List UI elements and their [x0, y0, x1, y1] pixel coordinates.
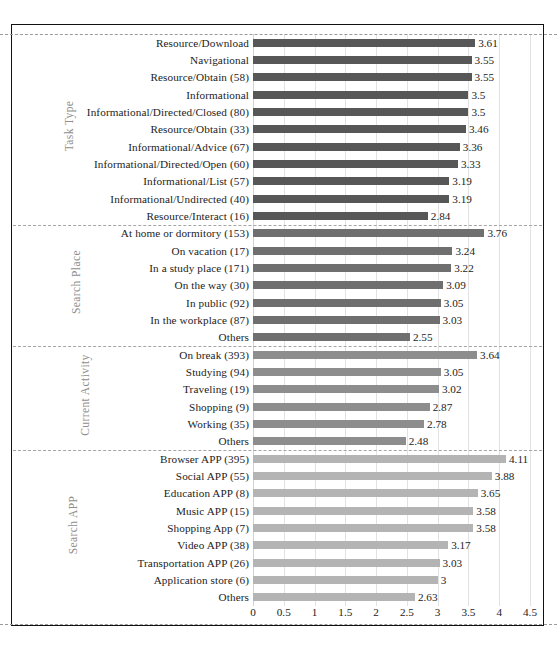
bar	[253, 472, 492, 480]
bar	[253, 333, 410, 341]
bar-value-label: 3.36	[463, 141, 483, 153]
x-tick-label: 0	[250, 606, 256, 618]
bar-row: Traveling (19)3.02	[0, 381, 557, 398]
bar-row: Resource/Obtain (33)3.46	[0, 121, 557, 138]
bar-row: At home or dormitory (153)3.76	[0, 225, 557, 242]
category-label: Informational/Directed/Open (60)	[94, 158, 249, 170]
bar	[253, 351, 477, 359]
x-tick-label: 2.5	[400, 606, 414, 618]
bar-row: Others2.63	[0, 589, 557, 606]
bar-row: Navigational3.55	[0, 51, 557, 68]
bar-value-label: 3.22	[454, 262, 474, 274]
category-label: Resource/Obtain (58)	[150, 71, 249, 83]
bar-value-label: 2.87	[433, 401, 453, 413]
category-label: Informational/List (57)	[143, 175, 249, 187]
bar-value-label: 3.17	[451, 539, 471, 551]
bar-row: Resource/Interact (16)2.84	[0, 207, 557, 224]
bar-value-label: 3.55	[475, 71, 495, 83]
bar	[253, 108, 468, 116]
category-label: Resource/Obtain (33)	[150, 123, 249, 135]
bar-value-label: 3.64	[480, 349, 500, 361]
bar-value-label: 3.03	[443, 314, 463, 326]
bar-row: Informational/Undirected (40)3.19	[0, 190, 557, 207]
bar-value-label: 3.88	[495, 470, 515, 482]
bar-row: In a study place (171)3.22	[0, 259, 557, 276]
category-label: Informational/Directed/Closed (80)	[87, 106, 249, 118]
bar-value-label: 4.11	[509, 453, 528, 465]
bar	[253, 160, 458, 168]
bar	[253, 91, 468, 99]
bar-value-label: 2.55	[413, 331, 433, 343]
category-label: Resource/Download	[156, 37, 249, 49]
x-tick-label: 1.5	[338, 606, 352, 618]
bar	[253, 177, 449, 185]
bar-row: Informational/Directed/Closed (80)3.5	[0, 103, 557, 120]
bar-value-label: 3.24	[455, 245, 475, 257]
bar-row: Informational/List (57)3.19	[0, 173, 557, 190]
category-label: In a study place (171)	[149, 262, 249, 274]
section-divider	[13, 450, 542, 451]
bar-value-label: 3.65	[481, 487, 501, 499]
category-label: Working (35)	[187, 418, 249, 430]
category-label: Informational/Undirected (40)	[110, 193, 249, 205]
bar-value-label: 3.05	[444, 297, 464, 309]
bar-value-label: 3.61	[478, 37, 498, 49]
bar	[253, 576, 438, 584]
bar-row: Informational3.5	[0, 86, 557, 103]
x-tick-label: 4	[496, 606, 502, 618]
bar	[253, 281, 443, 289]
category-label: Others	[219, 591, 249, 603]
category-label: Resource/Interact (16)	[146, 210, 249, 222]
category-label: On break (393)	[179, 349, 249, 361]
bar-value-label: 2.78	[427, 418, 447, 430]
bar-row: Music APP (15)3.58	[0, 502, 557, 519]
category-label: Studying (94)	[186, 366, 249, 378]
bar	[253, 229, 484, 237]
bar-row: Informational/Advice (67)3.36	[0, 138, 557, 155]
bar-value-label: 3.33	[461, 158, 481, 170]
category-label: Shopping (9)	[189, 401, 249, 413]
category-label: Transportation APP (26)	[138, 557, 250, 569]
category-label: In the workplace (87)	[150, 314, 249, 326]
bar-row: In the workplace (87)3.03	[0, 311, 557, 328]
category-label: On the way (30)	[174, 279, 249, 291]
x-tick-label: 2	[373, 606, 379, 618]
bar-row: Resource/Obtain (58)3.55	[0, 69, 557, 86]
bar-row: On break (393)3.64	[0, 346, 557, 363]
bar-value-label: 3.19	[452, 193, 472, 205]
bar	[253, 455, 506, 463]
bar-value-label: 3.55	[475, 54, 495, 66]
bar	[253, 385, 439, 393]
bar	[253, 368, 441, 376]
category-label: Application store (6)	[154, 574, 249, 586]
bar	[253, 403, 430, 411]
x-tick-label: 0.5	[277, 606, 291, 618]
bar-value-label: 2.63	[418, 591, 438, 603]
x-tick-label: 1	[312, 606, 318, 618]
bar	[253, 420, 424, 428]
bar-row: Video APP (38)3.17	[0, 537, 557, 554]
bar	[253, 541, 448, 549]
category-label: Informational/Advice (67)	[128, 141, 249, 153]
bar-row: Others2.48	[0, 433, 557, 450]
category-label: Others	[219, 435, 249, 447]
bar-row: Social APP (55)3.88	[0, 467, 557, 484]
x-tick-label: 3	[435, 606, 441, 618]
bar	[253, 73, 472, 81]
bar-value-label: 3.58	[476, 505, 496, 517]
bar-row: Others2.55	[0, 329, 557, 346]
bar-value-label: 3.5	[471, 89, 485, 101]
bottom-dashed-rule	[0, 624, 557, 625]
category-label: Shopping App (7)	[167, 522, 249, 534]
category-label: On vacation (17)	[172, 245, 249, 257]
category-label: Others	[219, 331, 249, 343]
bar	[253, 247, 452, 255]
bar-value-label: 2.84	[431, 210, 451, 222]
bar-value-label: 3.02	[442, 383, 462, 395]
bar-value-label: 3.5	[471, 106, 485, 118]
bar	[253, 125, 466, 133]
x-tick-label: 4.5	[523, 606, 537, 618]
section-divider	[13, 346, 542, 347]
bar-value-label: 3.19	[452, 175, 472, 187]
category-label: Traveling (19)	[183, 383, 249, 395]
